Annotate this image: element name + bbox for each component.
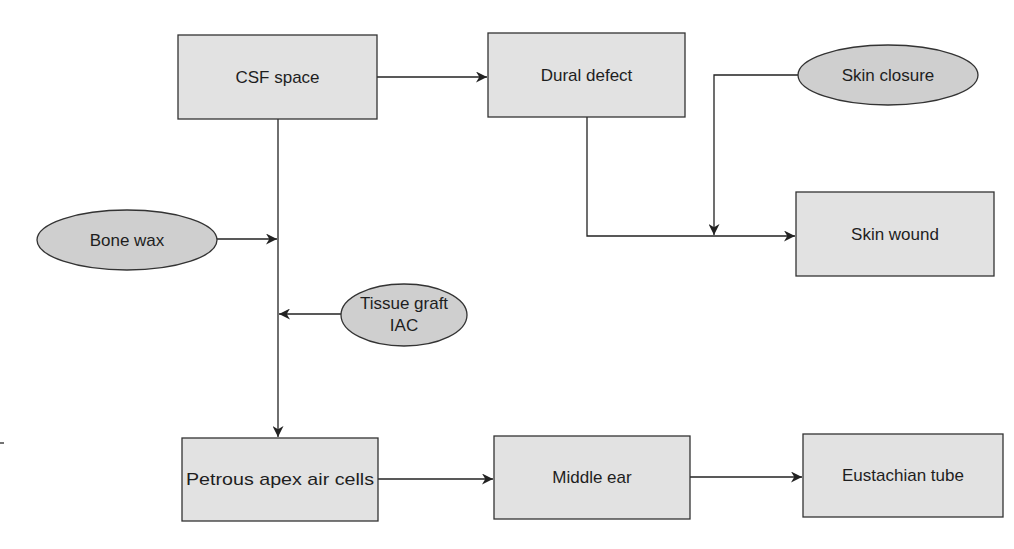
node-label: Middle ear	[552, 468, 632, 487]
node-tissue-graft: Tissue graft IAC	[341, 284, 467, 346]
node-label-line1: Tissue graft	[360, 294, 448, 313]
node-label: CSF space	[235, 68, 319, 87]
node-middle-ear: Middle ear	[494, 436, 690, 519]
flowchart-canvas: CSF space Dural defect Skin closure Skin…	[0, 0, 1014, 549]
edges	[217, 75, 802, 479]
node-label-line2: IAC	[390, 316, 418, 335]
node-label: Eustachian tube	[842, 466, 964, 485]
node-label: Skin closure	[842, 66, 935, 85]
node-label: Bone wax	[90, 231, 165, 250]
node-bone-wax: Bone wax	[37, 210, 217, 270]
node-dural-defect: Dural defect	[488, 33, 685, 117]
node-skin-wound: Skin wound	[796, 192, 994, 276]
edge-skin-closure	[714, 75, 798, 235]
node-skin-closure: Skin closure	[798, 45, 978, 105]
node-csf-space: CSF space	[178, 35, 377, 119]
node-label: Petrous apex air cells	[186, 470, 374, 489]
edge-dural-to-skin-wound	[587, 117, 795, 236]
node-label: Skin wound	[851, 225, 939, 244]
node-eustachian-tube: Eustachian tube	[803, 434, 1003, 517]
node-petrous-apex: Petrous apex air cells	[182, 438, 378, 521]
node-label: Dural defect	[541, 66, 633, 85]
